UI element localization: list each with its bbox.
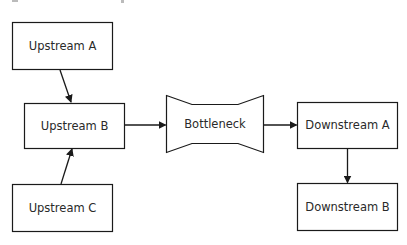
flow-diagram: Upstream A Upstream B Upstream C Bottlen…	[0, 0, 407, 245]
node-label: Upstream A	[29, 39, 97, 53]
edge-upstream-c-to-upstream-b	[61, 149, 72, 184]
node-label: Downstream A	[305, 118, 390, 132]
node-bottleneck[interactable]: Bottleneck	[167, 96, 264, 153]
node-upstream-a[interactable]: Upstream A	[13, 23, 113, 70]
node-upstream-c[interactable]: Upstream C	[13, 185, 113, 232]
clipped-top-artifacts	[12, 0, 124, 3]
node-downstream-b[interactable]: Downstream B	[298, 184, 398, 231]
node-label: Downstream B	[305, 200, 390, 214]
node-label: Upstream B	[41, 119, 109, 133]
node-label: Upstream C	[29, 201, 97, 215]
node-upstream-b[interactable]: Upstream B	[25, 104, 125, 149]
node-label: Bottleneck	[184, 117, 246, 131]
node-downstream-a[interactable]: Downstream A	[298, 103, 398, 149]
edge-upstream-a-to-upstream-b	[60, 70, 71, 102]
